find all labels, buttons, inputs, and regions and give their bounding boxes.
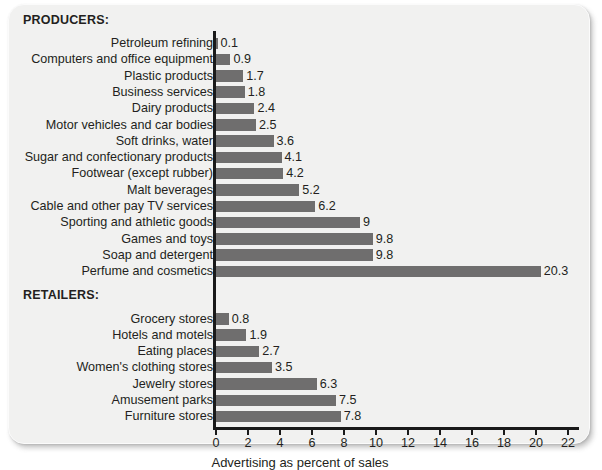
x-axis-tick-label: 12 [401, 436, 415, 450]
x-axis-line [213, 427, 579, 430]
bar-category-label: Grocery stores [130, 311, 213, 327]
x-axis-tick-label: 0 [212, 436, 219, 450]
bar-value-label: 3.6 [274, 133, 295, 149]
bar [216, 103, 254, 115]
bar-category-label: Dairy products [132, 100, 213, 116]
table-row: Eating places2.7 [9, 343, 591, 359]
table-row: Games and toys9.8 [9, 231, 591, 247]
table-row: Furniture stores7.8 [9, 408, 591, 424]
x-axis-tick-label: 8 [340, 436, 347, 450]
bar [216, 135, 274, 147]
bar [216, 378, 317, 390]
bar-category-label: Perfume and cosmetics [81, 263, 213, 279]
x-axis-tick [567, 430, 569, 435]
bar-value-label: 2.4 [254, 100, 275, 116]
table-row: Hotels and motels1.9 [9, 327, 591, 343]
table-row: Soft drinks, water3.6 [9, 133, 591, 149]
table-row: Sporting and athletic goods9 [9, 214, 591, 230]
table-row: Cable and other pay TV services6.2 [9, 198, 591, 214]
x-axis-tick-label: 16 [465, 436, 479, 450]
bar-value-label: 1.9 [246, 327, 267, 343]
bar-category-label: Women's clothing stores [76, 359, 213, 375]
x-axis-tick-label: 14 [433, 436, 447, 450]
bar-category-label: Soft drinks, water [116, 133, 213, 149]
bar-value-label: 4.2 [283, 165, 304, 181]
bar [216, 411, 341, 423]
bar-value-label: 2.7 [259, 343, 280, 359]
bar-chart-plot: PRODUCERS: RETAILERS: Petroleum refining… [9, 5, 591, 445]
bar [216, 168, 283, 180]
bar-value-label: 5.2 [299, 182, 320, 198]
bar-value-label: 6.2 [315, 198, 336, 214]
bar [216, 233, 373, 245]
bar [216, 201, 315, 213]
bar-value-label: 9.8 [373, 247, 394, 263]
bar [216, 313, 229, 325]
table-row: Business services1.8 [9, 84, 591, 100]
x-axis-tick [279, 430, 281, 435]
x-axis-tick [503, 430, 505, 435]
bar [216, 346, 259, 358]
bar [216, 54, 230, 66]
retailers-section-heading: RETAILERS: [23, 288, 99, 302]
bar-category-label: Soap and detergent [102, 247, 213, 263]
bar-category-label: Sporting and athletic goods [60, 214, 213, 230]
bar-category-label: Malt beverages [127, 182, 213, 198]
bar-category-label: Jewelry stores [133, 376, 213, 392]
x-axis-tick-label: 2 [244, 436, 251, 450]
table-row: Soap and detergent9.8 [9, 247, 591, 263]
x-axis-tick [407, 430, 409, 435]
table-row: Computers and office equipment0.9 [9, 51, 591, 67]
bar [216, 395, 336, 407]
bar-value-label: 1.8 [245, 84, 266, 100]
bar-value-label: 1.7 [243, 68, 264, 84]
bar-category-label: Motor vehicles and car bodies [46, 117, 213, 133]
x-axis-tick-label: 4 [276, 436, 283, 450]
bar-category-label: Cable and other pay TV services [31, 198, 213, 214]
x-axis-tick [535, 430, 537, 435]
bar-category-label: Sugar and confectionary products [25, 149, 213, 165]
bar-value-label: 0.1 [218, 35, 239, 51]
x-axis-tick [247, 430, 249, 435]
bar-value-label: 6.3 [317, 376, 338, 392]
table-row: Grocery stores0.8 [9, 311, 591, 327]
bar-value-label: 0.9 [230, 51, 251, 67]
figure-card: PRODUCERS: RETAILERS: Petroleum refining… [8, 4, 590, 444]
producers-section-heading: PRODUCERS: [23, 13, 109, 27]
bar [216, 119, 256, 131]
bar-category-label: Computers and office equipment [31, 51, 213, 67]
bar-value-label: 4.1 [282, 149, 303, 165]
x-axis-tick-label: 20 [529, 436, 543, 450]
bar [216, 362, 272, 374]
bar-value-label: 2.5 [256, 117, 277, 133]
bar [216, 249, 373, 261]
bar-value-label: 9 [360, 214, 370, 230]
bar-value-label: 20.3 [541, 263, 569, 279]
x-axis-title: Advertising as percent of sales [9, 455, 591, 470]
bar-category-label: Eating places [137, 343, 213, 359]
bar-category-label: Furniture stores [125, 408, 213, 424]
table-row: Malt beverages5.2 [9, 182, 591, 198]
bar-category-label: Footwear (except rubber) [72, 165, 213, 181]
bar-value-label: 3.5 [272, 359, 293, 375]
table-row: Sugar and confectionary products4.1 [9, 149, 591, 165]
bar [216, 266, 541, 278]
x-axis-tick-label: 18 [497, 436, 511, 450]
bar [216, 184, 299, 196]
bar [216, 329, 246, 341]
table-row: Jewelry stores6.3 [9, 376, 591, 392]
x-axis-tick [375, 430, 377, 435]
bar-category-label: Petroleum refining [111, 35, 213, 51]
x-axis-tick [215, 430, 217, 435]
table-row: Amusement parks7.5 [9, 392, 591, 408]
x-axis-tick-label: 22 [561, 436, 575, 450]
bar-value-label: 7.5 [336, 392, 357, 408]
bar [216, 86, 245, 98]
bar-category-label: Games and toys [121, 231, 213, 247]
bar-value-label: 7.8 [341, 408, 362, 424]
x-axis-tick [311, 430, 313, 435]
bar-category-label: Amusement parks [112, 392, 214, 408]
table-row: Plastic products1.7 [9, 68, 591, 84]
x-axis-tick-label: 6 [308, 436, 315, 450]
table-row: Petroleum refining0.1 [9, 35, 591, 51]
